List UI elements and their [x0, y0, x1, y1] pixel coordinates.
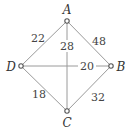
vertex-a: [65, 19, 69, 23]
edge-weight-d-c: 18: [32, 88, 46, 101]
vertex-c: [65, 109, 69, 113]
edge-weight-d-b: 20: [80, 60, 94, 73]
edge-weight-a-d: 22: [31, 32, 45, 45]
vertex-b: [109, 64, 113, 68]
vertex-label-c: C: [62, 116, 71, 130]
edge-weight-a-c: 28: [60, 40, 74, 53]
edge-weight-a-b: 48: [92, 35, 106, 48]
vertex-label-b: B: [116, 60, 126, 74]
vertex-label-a: A: [62, 3, 72, 17]
vertex-label-d: D: [5, 60, 16, 74]
weighted-graph-diagram: 22 48 28 20 18 32 A B C D: [0, 0, 130, 132]
vertex-d: [19, 64, 23, 68]
edge-weight-b-c: 32: [91, 91, 105, 104]
